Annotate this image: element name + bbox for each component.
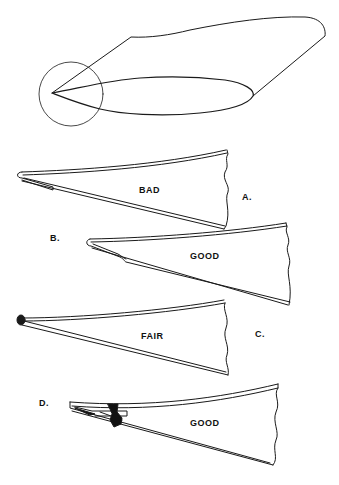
panel-d-drawing — [70, 384, 278, 465]
detail-circle — [39, 62, 103, 126]
panel-d-rating-label: GOOD — [190, 418, 220, 428]
panel-a-letter-label: A. — [242, 192, 252, 202]
panel-a-rating-label: BAD — [139, 185, 160, 195]
panel-d-letter-label: D. — [39, 398, 49, 408]
panel-c-drawing — [17, 300, 228, 375]
panel-c-letter-label: C. — [255, 329, 265, 339]
panel-c-rating-label: FAIR — [141, 331, 164, 341]
panel-a-drawing — [18, 150, 229, 229]
panel-b-rating-label: GOOD — [190, 251, 220, 261]
panel-b-letter-label: B. — [50, 233, 60, 243]
wing-overview-drawing — [39, 17, 325, 126]
panel-b-drawing — [87, 223, 291, 305]
